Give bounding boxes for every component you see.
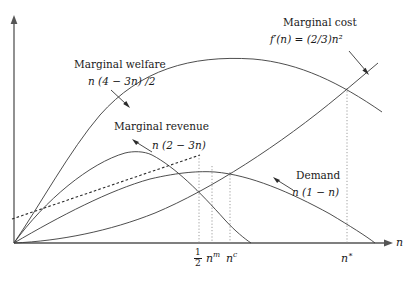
curve-marginal-revenue — [14, 152, 251, 243]
label-marginal-cost-formula: f′(n) = (2/3)n² — [270, 33, 343, 45]
drop-lines-group — [199, 88, 347, 243]
figure-canvas: Marginal cost f′(n) = (2/3)n² Marginal w… — [0, 0, 410, 285]
label-marginal-welfare-title: Marginal welfare — [74, 58, 166, 70]
label-demand-formula: n (1 − n) — [292, 186, 339, 198]
fraction-denominator: 2 — [194, 259, 202, 269]
x-axis-label: n — [396, 236, 403, 249]
label-marginal-revenue-title: Marginal revenue — [114, 120, 209, 132]
tick-superscript: ∗ — [348, 250, 353, 259]
tick-label-n-star: n∗ — [341, 250, 353, 265]
pointer-marginal-revenue — [132, 139, 152, 152]
tick-superscript: c — [233, 250, 237, 259]
y-axis-arrowhead — [11, 15, 18, 24]
label-demand-title: Demand — [296, 169, 340, 181]
pointer-marginal-welfare — [111, 90, 130, 108]
label-marginal-revenue-formula: n (2 − 3n) — [152, 139, 206, 151]
tick-label-one-half: 1 2 — [194, 248, 202, 268]
label-marginal-welfare-formula: n (4 − 3n) /2 — [88, 75, 155, 87]
fraction-numerator: 1 — [194, 248, 202, 259]
x-axis-arrowhead — [384, 240, 393, 247]
label-marginal-cost-title: Marginal cost — [283, 16, 357, 28]
tangent-dashed-line — [12, 155, 200, 219]
tick-label-n-competitive: nc — [226, 250, 237, 265]
tick-superscript: m — [213, 250, 220, 259]
curve-marginal-cost — [14, 63, 378, 243]
pointer-marginal-cost — [349, 51, 369, 75]
tick-label-n-monopoly: nm — [206, 250, 220, 265]
curve-demand — [14, 172, 375, 243]
